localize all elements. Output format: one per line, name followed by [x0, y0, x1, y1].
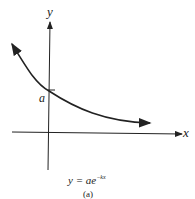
y-axis-label: y	[47, 4, 53, 20]
equation: y = ae−kx	[68, 174, 106, 186]
decay-curve	[12, 44, 150, 123]
intercept-label: a	[39, 91, 45, 106]
x-axis-label: x	[183, 125, 189, 141]
caption: (a)	[83, 189, 93, 199]
equation-exponent: −kx	[96, 174, 105, 180]
x-axis	[12, 132, 182, 134]
y-axis	[48, 22, 50, 170]
exponential-decay-diagram	[0, 0, 195, 199]
equation-base: y = ae	[68, 174, 96, 186]
